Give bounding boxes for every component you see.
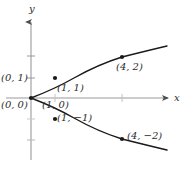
label-point-4-neg2: (4, −2) <box>127 131 162 141</box>
x-axis-label: x <box>174 93 180 103</box>
label-point-1-neg1: (1, −1) <box>57 113 92 123</box>
label-point-1-1: (1, 1) <box>57 83 84 93</box>
data-point-4-neg2 <box>120 137 124 141</box>
plot-canvas <box>0 0 186 171</box>
label-point-0-1: (0, 1) <box>1 73 28 83</box>
data-point-0-0 <box>29 96 33 100</box>
data-point-1-1 <box>53 76 57 80</box>
data-point-4-2 <box>120 55 124 59</box>
label-point-1-0: (1, 0) <box>42 100 69 110</box>
label-point-0-0: (0, 0) <box>1 100 28 110</box>
parabola-figure: y x (0, 1) (0, 0) (1, 1) (1, 0) (1, −1) … <box>0 0 186 171</box>
label-point-4-2: (4, 2) <box>116 62 143 72</box>
y-axis-label: y <box>29 4 35 14</box>
